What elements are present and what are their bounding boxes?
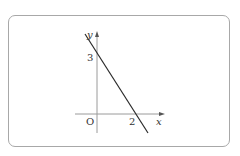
y-intercept-label: 3 — [87, 52, 93, 63]
y-axis — [95, 31, 99, 133]
coordinate-graph: y x 3 2 O — [0, 0, 240, 156]
y-axis-label: y — [86, 29, 93, 40]
origin-label: O — [86, 116, 94, 127]
graph-line — [85, 34, 148, 133]
x-axis-label: x — [156, 116, 162, 127]
y-axis-arrow-icon — [95, 31, 99, 37]
x-intercept-label: 2 — [129, 116, 135, 127]
